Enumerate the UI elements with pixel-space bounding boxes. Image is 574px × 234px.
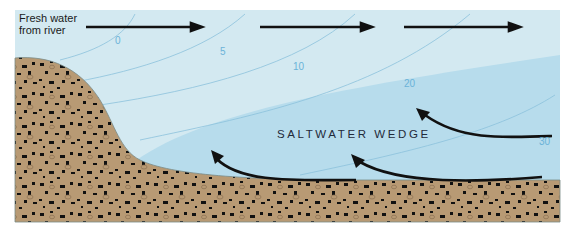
saltwater-wedge-label: SALTWATER WEDGE [277, 128, 431, 140]
isoline-label-10: 10 [293, 61, 304, 72]
estuary-diagram: Fresh water from river 0 5 10 20 30 SALT… [0, 0, 574, 234]
isoline-label-20: 20 [404, 78, 415, 89]
isoline-label-0: 0 [115, 35, 121, 46]
river-label-line-1: Fresh water [19, 12, 77, 24]
isoline-label-5: 5 [220, 46, 226, 57]
river-label-line-2: from river [19, 24, 77, 36]
isoline-label-30: 30 [539, 136, 550, 147]
estuary-illustration [0, 0, 574, 234]
river-source-label: Fresh water from river [19, 12, 77, 36]
